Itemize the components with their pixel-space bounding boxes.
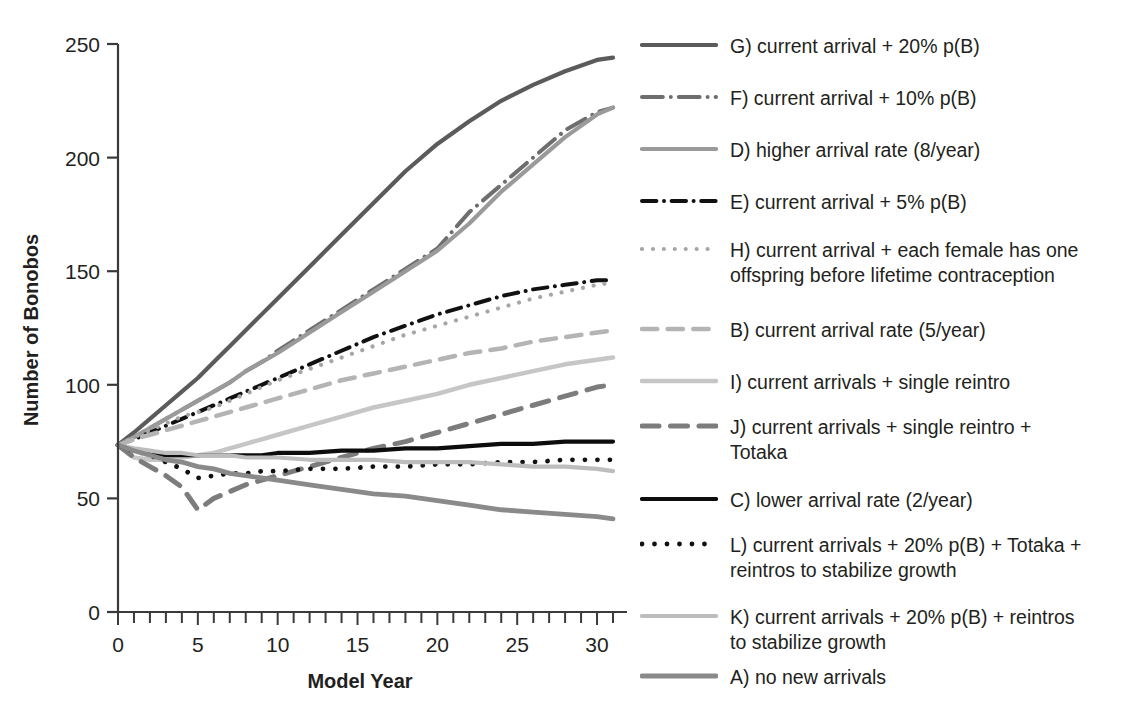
legend-swatch-K-icon (640, 605, 718, 625)
legend-item-H[interactable]: H) current arrival + each female has one… (640, 238, 1078, 288)
x-tick-label: 30 (585, 633, 608, 656)
legend-label-D: D) higher arrival rate (8/year) (730, 138, 980, 163)
legend-swatch-E-icon (640, 190, 718, 210)
legend-label-J: J) current arrivals + single reintro + T… (730, 415, 1031, 465)
legend-swatch-L-icon (640, 533, 718, 553)
legend-item-B[interactable]: B) current arrival rate (5/year) (640, 318, 986, 343)
legend-swatch-H-icon (640, 238, 718, 258)
data-series-group (118, 58, 613, 519)
y-tick-label: 250 (65, 33, 100, 56)
x-tick-label: 15 (346, 633, 369, 656)
legend-swatch-I-icon (640, 370, 718, 390)
legend-item-D[interactable]: D) higher arrival rate (8/year) (640, 138, 980, 163)
legend-label-L: L) current arrivals + 20% p(B) + Totaka … (730, 533, 1081, 583)
x-tick-label: 25 (506, 633, 529, 656)
y-tick-label: 100 (65, 374, 100, 397)
legend-item-E[interactable]: E) current arrival + 5% p(B) (640, 190, 967, 215)
chart-plot-area: 050100150200250051015202530 Number of Bo… (0, 0, 640, 714)
legend-swatch-G-icon (640, 34, 718, 54)
legend-swatch-J-icon (640, 415, 718, 435)
legend-label-C: C) lower arrival rate (2/year) (730, 488, 973, 513)
legend-item-K[interactable]: K) current arrivals + 20% p(B) + reintro… (640, 605, 1075, 655)
legend-item-L[interactable]: L) current arrivals + 20% p(B) + Totaka … (640, 533, 1081, 583)
axes-group (107, 44, 627, 625)
legend-label-A: A) no new arrivals (730, 665, 886, 690)
legend-label-B: B) current arrival rate (5/year) (730, 318, 986, 343)
series-line-B (118, 330, 613, 445)
legend-swatch-C-icon (640, 488, 718, 508)
legend-item-G[interactable]: G) current arrival + 20% p(B) (640, 34, 980, 59)
legend-label-F: F) current arrival + 10% p(B) (730, 86, 977, 111)
x-tick-label: 5 (192, 633, 204, 656)
x-tick-label: 0 (112, 633, 124, 656)
series-line-E (118, 280, 613, 445)
legend-item-C[interactable]: C) lower arrival rate (2/year) (640, 488, 973, 513)
y-tick-label: 0 (88, 601, 100, 624)
legend-label-G: G) current arrival + 20% p(B) (730, 34, 980, 59)
chart-legend: G) current arrival + 20% p(B)F) current … (640, 0, 1122, 714)
legend-swatch-D-icon (640, 138, 718, 158)
legend-item-A[interactable]: A) no new arrivals (640, 665, 886, 690)
legend-label-H: H) current arrival + each female has one… (730, 238, 1078, 288)
legend-swatch-F-icon (640, 86, 718, 106)
x-tick-label: 20 (426, 633, 449, 656)
x-axis-title: Model Year (307, 670, 412, 692)
legend-label-I: I) current arrivals + single reintro (730, 370, 1010, 395)
y-tick-label: 200 (65, 147, 100, 170)
chart-svg: 050100150200250051015202530 Number of Bo… (0, 0, 640, 714)
legend-item-I[interactable]: I) current arrivals + single reintro (640, 370, 1010, 395)
y-tick-label: 50 (77, 487, 100, 510)
y-axis-title: Number of Bonobos (20, 234, 42, 426)
legend-item-J[interactable]: J) current arrivals + single reintro + T… (640, 415, 1031, 465)
legend-label-K: K) current arrivals + 20% p(B) + reintro… (730, 605, 1075, 655)
legend-swatch-B-icon (640, 318, 718, 338)
legend-label-E: E) current arrival + 5% p(B) (730, 190, 967, 215)
x-tick-label: 10 (266, 633, 289, 656)
bonobo-population-projection-figure: 050100150200250051015202530 Number of Bo… (0, 0, 1122, 714)
series-line-D (118, 108, 613, 445)
legend-item-F[interactable]: F) current arrival + 10% p(B) (640, 86, 977, 111)
legend-swatch-A-icon (640, 665, 718, 685)
series-line-G (118, 58, 613, 445)
y-tick-label: 150 (65, 260, 100, 283)
